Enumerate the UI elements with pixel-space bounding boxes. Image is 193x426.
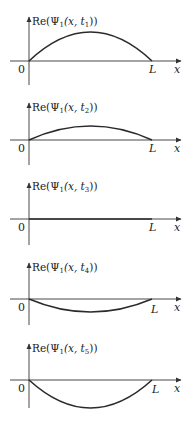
origin-label: 0	[18, 142, 25, 155]
endpoint-label: L	[150, 303, 158, 316]
panel-t1: Re(Ψ1(x, t1)) 0 L x	[10, 15, 181, 85]
panel-label: Re(Ψ1(x, t1))	[32, 15, 98, 29]
panel-t5: Re(Ψ1(x, t5)) 0 L x	[10, 342, 181, 408]
origin-label: 0	[18, 63, 25, 76]
x-axis-label: x	[174, 382, 181, 395]
x-axis-label: x	[174, 142, 181, 155]
panel-label: Re(Ψ1(x, t4))	[32, 261, 98, 275]
origin-label: 0	[18, 382, 25, 395]
wave-curve	[29, 32, 152, 61]
endpoint-label: L	[148, 221, 156, 234]
panel-t2: Re(Ψ1(x, t2)) 0 L x	[10, 101, 181, 165]
wave-curve	[29, 299, 152, 312]
wave-curve	[29, 126, 152, 140]
x-axis-label: x	[174, 301, 181, 314]
x-axis-label: x	[174, 63, 181, 76]
x-axis-label: x	[174, 221, 181, 234]
panel-t3: Re(Ψ1(x, t3)) 0 L x	[10, 180, 181, 245]
panel-label: Re(Ψ1(x, t2))	[32, 101, 98, 115]
panel-label: Re(Ψ1(x, t3))	[32, 180, 98, 194]
panel-t4: Re(Ψ1(x, t4)) 0 L x	[10, 261, 181, 325]
endpoint-label: L	[148, 63, 156, 76]
wavefunction-figure: Re(Ψ1(x, t1)) 0 L x Re(Ψ1(x, t2)) 0 L x …	[0, 0, 193, 426]
origin-label: 0	[18, 301, 25, 314]
wave-curve	[29, 380, 152, 408]
endpoint-label: L	[148, 142, 156, 155]
origin-label: 0	[18, 221, 25, 234]
endpoint-label: L	[151, 383, 159, 396]
panel-label: Re(Ψ1(x, t5))	[32, 342, 98, 356]
